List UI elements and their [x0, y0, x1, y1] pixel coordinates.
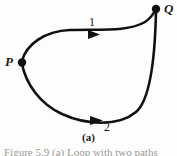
vertex-label-p: P: [5, 55, 13, 68]
figure-caption: (a): [0, 132, 177, 143]
figure-container: P Q 1 2 (a) Figure 5.9 (a) Loop with two…: [0, 0, 177, 156]
path-1-arrowhead: [88, 30, 100, 39]
path-label-1: 1: [89, 16, 95, 28]
vertex-label-q: Q: [164, 2, 173, 15]
vertex-dot-p: [18, 58, 26, 66]
cut-off-caption-row: Figure 5.9 (a) Loop with two paths: [0, 147, 177, 156]
vertex-dot-q: [152, 5, 160, 13]
cut-off-caption-text: Figure 5.9 (a) Loop with two paths: [0, 147, 177, 156]
